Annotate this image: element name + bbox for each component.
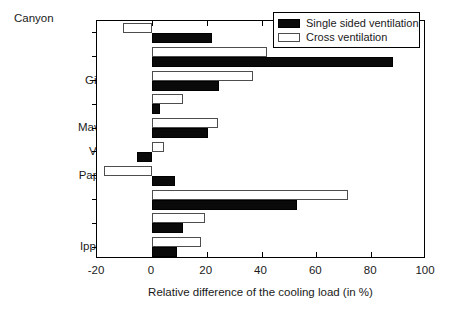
- bar-papastratos-black: [152, 176, 175, 186]
- bar-mavromihail-white: [152, 118, 218, 128]
- y-axis-tick: [92, 80, 97, 81]
- x-axis-tick-label-40: 40: [254, 264, 267, 276]
- x-axis-title: Relative difference of the cooling load …: [96, 286, 425, 299]
- plot-area: [96, 20, 425, 258]
- y-axis-tick: [92, 199, 97, 200]
- x-axis-tick-top: [262, 21, 263, 26]
- x-axis-tick-label--20: -20: [88, 264, 105, 276]
- x-axis-tick-bottom: [152, 252, 153, 257]
- bar-valaoritou-white: [152, 142, 164, 152]
- bar-chart-figure: Canyon EurotaOmirouGiannitsonKodrouMavro…: [0, 0, 460, 312]
- x-axis-tick-bottom: [207, 252, 208, 257]
- bar-valaoritou-black: [137, 152, 152, 162]
- bar-ippokratous-white: [152, 237, 201, 247]
- y-axis-tick: [92, 32, 97, 33]
- legend-swatch-black-icon: [278, 19, 300, 28]
- bar-kodrou-black: [152, 104, 160, 114]
- x-axis-tick-label-20: 20: [199, 264, 212, 276]
- bar-giannitson-black: [152, 81, 219, 91]
- x-axis-tick-label-0: 0: [148, 264, 154, 276]
- legend-item-cross: Cross ventilation: [278, 30, 415, 44]
- bar-mavromihail-black: [152, 128, 208, 138]
- x-axis-tick-top: [152, 21, 153, 26]
- y-axis-tick: [92, 56, 97, 57]
- bar-solonos-white: [152, 213, 205, 223]
- chart-legend: Single sided ventilation Cross ventilati…: [273, 12, 420, 48]
- x-axis-tick-bottom: [316, 252, 317, 257]
- bar-papastratos-white: [104, 166, 152, 176]
- legend-label-cross: Cross ventilation: [306, 31, 387, 43]
- legend-label-single-sided: Single sided ventilation: [306, 17, 419, 29]
- bar-kavalas-black: [152, 200, 297, 210]
- y-axis-group-label: Canyon: [14, 12, 54, 24]
- y-axis-tick: [92, 104, 97, 105]
- bar-solonos-black: [152, 223, 184, 233]
- y-axis-tick: [92, 175, 97, 176]
- x-axis-tick-bottom: [262, 252, 263, 257]
- y-axis-tick: [92, 223, 97, 224]
- y-axis-tick: [92, 247, 97, 248]
- bar-kodrou-white: [152, 94, 184, 104]
- bar-eurota-white: [123, 23, 152, 33]
- bar-giannitson-white: [152, 71, 253, 81]
- bar-ippokratous-black: [152, 247, 177, 257]
- bar-kavalas-white: [152, 190, 348, 200]
- x-axis-tick-bottom: [371, 252, 372, 257]
- y-axis-tick: [92, 128, 97, 129]
- x-axis-tick-top: [207, 21, 208, 26]
- x-axis-tick-label-80: 80: [364, 264, 377, 276]
- plot-inner: [97, 21, 424, 257]
- bar-eurota-black: [152, 33, 212, 43]
- x-axis-tick-label-100: 100: [415, 264, 434, 276]
- legend-swatch-white-icon: [278, 33, 300, 42]
- legend-item-single-sided: Single sided ventilation: [278, 16, 415, 30]
- bar-omirou-white: [152, 47, 267, 57]
- bar-omirou-black: [152, 57, 393, 67]
- y-axis-tick: [92, 151, 97, 152]
- x-axis-tick-label-60: 60: [309, 264, 322, 276]
